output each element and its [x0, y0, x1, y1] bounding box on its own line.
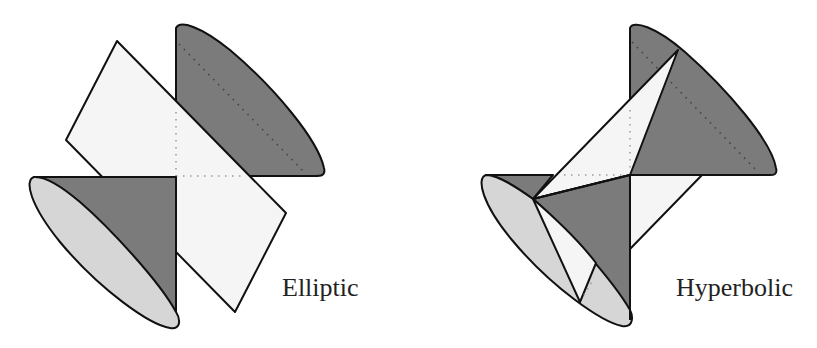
hyperbolic-right-face — [630, 175, 702, 249]
diagram-canvas: Elliptic Hyperbolic — [0, 0, 817, 348]
hyperbolic-figure: Hyperbolic — [482, 25, 793, 327]
elliptic-label: Elliptic — [282, 273, 359, 302]
hyperbolic-label: Hyperbolic — [676, 273, 793, 302]
elliptic-figure: Elliptic — [30, 25, 359, 329]
